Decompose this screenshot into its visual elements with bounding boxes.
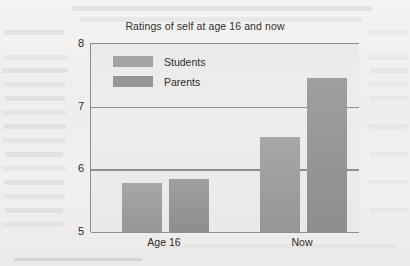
bar-students-age16[interactable] [122, 183, 162, 232]
bar-chart-figure: Ratings of self at age 16 and now 8 7 6 … [0, 0, 410, 266]
x-tick-label: Now [291, 236, 312, 248]
y-axis: 8 7 6 5 [54, 43, 84, 231]
chart-legend: Students Parents [113, 53, 233, 93]
x-axis-baseline [91, 232, 359, 233]
chart-title: Ratings of self at age 16 and now [0, 20, 410, 32]
legend-label: Students [164, 56, 205, 68]
legend-item-parents[interactable]: Parents [113, 73, 233, 90]
legend-label: Parents [164, 76, 200, 88]
bar-students-now[interactable] [260, 137, 300, 232]
y-tick-label: 5 [54, 225, 84, 237]
bar-parents-age16[interactable] [169, 179, 209, 232]
legend-swatch-icon [113, 76, 153, 87]
y-tick-label: 8 [54, 37, 84, 49]
legend-item-students[interactable]: Students [113, 53, 233, 70]
legend-swatch-icon [113, 56, 153, 67]
y-tick-label: 7 [54, 100, 84, 112]
y-tick-label: 6 [54, 162, 84, 174]
x-axis: Age 16 Now [90, 236, 358, 254]
bar-parents-now[interactable] [307, 78, 347, 232]
x-tick-label: Age 16 [147, 236, 180, 248]
plot-area: Students Parents [90, 43, 359, 232]
